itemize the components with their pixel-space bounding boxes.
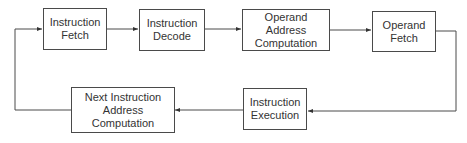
node-instruction-decode: Instruction Decode	[139, 9, 205, 51]
node-instruction-execution: Instruction Execution	[243, 88, 307, 130]
node-operand-fetch: Operand Fetch	[372, 11, 436, 52]
node-operand-address-computation: Operand Address Computation	[242, 9, 330, 51]
node-instruction-fetch: Instruction Fetch	[43, 8, 107, 50]
node-next-instruction-address-computation: Next Instruction Address Computation	[71, 87, 175, 133]
